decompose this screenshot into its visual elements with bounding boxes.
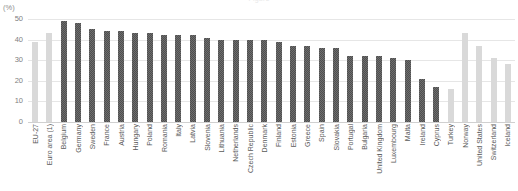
bar-iceland[interactable] <box>505 64 511 122</box>
category-slot: Cyprus <box>429 124 443 191</box>
bar-slot <box>100 19 114 122</box>
x-tick-label-belgium: Belgium <box>60 124 67 149</box>
bar-portugal[interactable] <box>347 56 353 122</box>
x-tick-label-ireland: Ireland <box>419 124 426 145</box>
bar-chart: Figure (%) 01020304050 EU-27Euro area (1… <box>0 0 518 191</box>
category-slot: Austria <box>114 124 128 191</box>
bar-slot <box>186 19 200 122</box>
bar-slot <box>487 19 501 122</box>
bar-latvia[interactable] <box>190 35 196 122</box>
bar-poland[interactable] <box>147 33 153 122</box>
bar-sweden[interactable] <box>89 29 95 122</box>
x-tick-label-switzerland: Switzerland <box>490 124 497 160</box>
category-slot: Italy <box>171 124 185 191</box>
bar-slot <box>143 19 157 122</box>
bar-euro-area-1[interactable] <box>46 33 52 122</box>
bar-netherlands[interactable] <box>233 40 239 122</box>
x-tick-label-finland: Finland <box>275 124 282 147</box>
bar-slot <box>85 19 99 122</box>
bar-greece[interactable] <box>304 46 310 122</box>
bar-eu-27[interactable] <box>32 42 38 122</box>
y-tick-label-0: 0 <box>19 118 23 126</box>
y-tick-label-40: 40 <box>15 36 23 44</box>
category-slot: Euro area (1) <box>42 124 56 191</box>
bar-ireland[interactable] <box>419 79 425 122</box>
x-axis-category-labels: EU-27Euro area (1)BelgiumGermanySwedenFr… <box>28 124 515 191</box>
bar-norway[interactable] <box>462 33 468 122</box>
bar-hungary[interactable] <box>132 33 138 122</box>
x-tick-label-austria: Austria <box>118 124 125 146</box>
plot-area <box>28 19 515 122</box>
x-tick-label-slovakia: Slovakia <box>333 124 340 150</box>
bar-slot <box>444 19 458 122</box>
category-slot: Ireland <box>415 124 429 191</box>
category-slot: EU-27 <box>28 124 42 191</box>
bar-slot <box>315 19 329 122</box>
bar-united-kingdom[interactable] <box>376 56 382 122</box>
x-tick-label-latvia: Latvia <box>189 124 196 143</box>
bar-slot <box>386 19 400 122</box>
category-slot: France <box>100 124 114 191</box>
x-tick-label-czech-republic: Czech Republic <box>247 124 254 173</box>
category-slot: Lithuania <box>214 124 228 191</box>
bar-romania[interactable] <box>161 35 167 122</box>
x-tick-label-lithuania: Lithuania <box>218 124 225 152</box>
x-tick-label-united-states: United States <box>476 124 483 166</box>
bar-slot <box>358 19 372 122</box>
category-slot: Bulgaria <box>358 124 372 191</box>
x-tick-label-luxembourg: Luxembourg <box>390 124 397 163</box>
bar-austria[interactable] <box>118 31 124 122</box>
bar-luxembourg[interactable] <box>390 58 396 122</box>
x-tick-label-poland: Poland <box>146 124 153 146</box>
bar-italy[interactable] <box>175 35 181 122</box>
x-tick-label-italy: Italy <box>175 124 182 137</box>
category-slot: Switzerland <box>487 124 501 191</box>
category-slot: Portugal <box>343 124 357 191</box>
bar-slot <box>257 19 271 122</box>
bar-slot <box>200 19 214 122</box>
category-slot: Iceland <box>501 124 515 191</box>
bar-slovenia[interactable] <box>204 38 210 122</box>
bar-slot <box>214 19 228 122</box>
bar-lithuania[interactable] <box>218 40 224 122</box>
bar-belgium[interactable] <box>61 21 67 122</box>
category-slot: Spain <box>315 124 329 191</box>
y-tick-label-50: 50 <box>15 15 23 23</box>
x-tick-label-spain: Spain <box>318 124 325 142</box>
bar-finland[interactable] <box>276 42 282 122</box>
category-slot: Slovenia <box>200 124 214 191</box>
bar-cyprus[interactable] <box>433 87 439 122</box>
category-slot: Belgium <box>57 124 71 191</box>
bar-slot <box>243 19 257 122</box>
bar-bulgaria[interactable] <box>362 56 368 122</box>
bar-series <box>28 19 515 122</box>
bar-denmark[interactable] <box>261 40 267 122</box>
x-tick-label-malta: Malta <box>404 124 411 141</box>
category-slot: Finland <box>272 124 286 191</box>
category-slot: United Kingdom <box>372 124 386 191</box>
y-axis-tick-labels: 01020304050 <box>0 19 26 122</box>
bar-slot <box>229 19 243 122</box>
category-slot: Luxembourg <box>386 124 400 191</box>
bar-czech-republic[interactable] <box>247 40 253 122</box>
bar-estonia[interactable] <box>290 46 296 122</box>
category-slot: United States <box>472 124 486 191</box>
bar-switzerland[interactable] <box>491 58 497 122</box>
gridline-0 <box>28 122 515 123</box>
bar-france[interactable] <box>104 31 110 122</box>
bar-slot <box>329 19 343 122</box>
bar-slot <box>472 19 486 122</box>
x-tick-label-netherlands: Netherlands <box>232 124 239 162</box>
category-slot: Poland <box>143 124 157 191</box>
bar-slot <box>429 19 443 122</box>
bar-malta[interactable] <box>405 60 411 122</box>
bar-united-states[interactable] <box>476 46 482 122</box>
category-slot: Slovakia <box>329 124 343 191</box>
bar-spain[interactable] <box>319 48 325 122</box>
category-slot: Norway <box>458 124 472 191</box>
bar-slovakia[interactable] <box>333 48 339 122</box>
bar-germany[interactable] <box>75 23 81 122</box>
bar-slot <box>171 19 185 122</box>
bar-turkey[interactable] <box>448 89 454 122</box>
category-slot: Denmark <box>257 124 271 191</box>
